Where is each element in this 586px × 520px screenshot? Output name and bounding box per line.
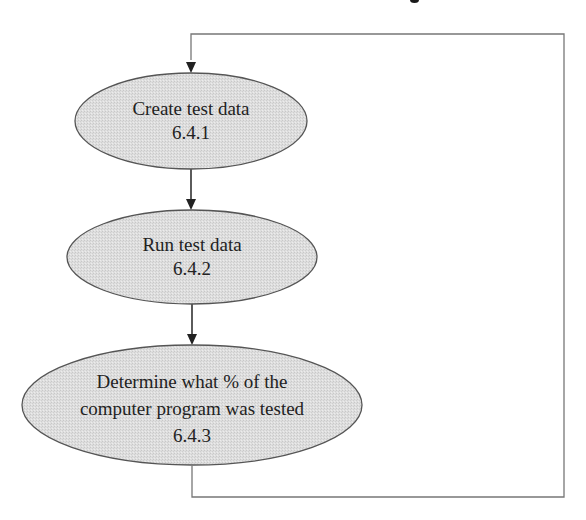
arrowhead-icon — [186, 199, 196, 210]
node-number: 6.4.2 — [142, 257, 241, 281]
node-label-create-test-data: Create test data 6.4.1 — [132, 97, 249, 145]
node-number: 6.4.1 — [132, 121, 249, 145]
node-title: Run test data — [142, 233, 241, 257]
arrowhead-icon — [187, 334, 197, 345]
node-title-line-1: Determine what % of the — [80, 368, 304, 395]
edge-create-to-run — [186, 169, 196, 210]
edge-run-to-determine — [187, 304, 197, 345]
node-label-determine-coverage: Determine what % of the computer program… — [80, 368, 304, 449]
arrowhead-icon — [186, 62, 196, 73]
node-title-line-2: computer program was tested — [80, 395, 304, 422]
node-title: Create test data — [132, 97, 249, 121]
flowchart-diagram: Create test data 6.4.1 Run test data 6.4… — [0, 0, 586, 520]
node-label-run-test-data: Run test data 6.4.2 — [142, 233, 241, 281]
node-number: 6.4.3 — [80, 422, 304, 449]
